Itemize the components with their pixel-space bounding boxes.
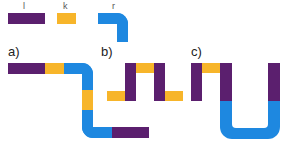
- legend-label-l: l: [23, 1, 25, 11]
- panel-c-label: c): [191, 45, 202, 59]
- piece-l: [191, 63, 202, 101]
- piece-l: [154, 63, 165, 101]
- piece-k: [107, 91, 125, 101]
- piece-k: [202, 63, 220, 73]
- panel-a-label: a): [8, 45, 20, 59]
- piece-l: [220, 63, 232, 101]
- piece-l: [112, 127, 149, 138]
- piece-l: [8, 63, 45, 74]
- piece-k: [136, 63, 154, 73]
- legend-label-r: r: [112, 1, 115, 11]
- piece-k-icon: [57, 13, 76, 24]
- piece-l: [268, 63, 280, 101]
- panel-b-label: b): [101, 45, 113, 59]
- piece-k: [82, 90, 93, 110]
- legend-label-k: k: [63, 1, 68, 11]
- piece-l-icon: [8, 13, 45, 24]
- piece-l: [125, 63, 136, 101]
- piece-k: [45, 63, 64, 74]
- piece-k: [165, 91, 183, 101]
